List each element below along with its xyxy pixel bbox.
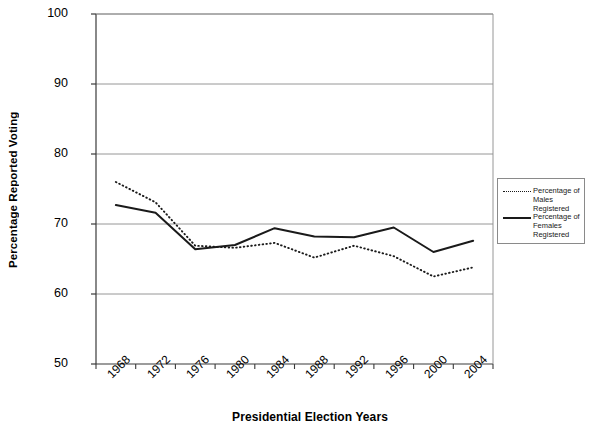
dotted-line-icon xyxy=(503,186,531,198)
line-chart: Percentage Reported Voting 1009080706050… xyxy=(0,0,592,433)
series-line-males xyxy=(116,182,473,277)
series-layer xyxy=(116,182,473,277)
axis-lines xyxy=(96,14,493,364)
y-axis-tick-marks xyxy=(91,14,96,364)
legend-entry-males: Percentage of Males Registered xyxy=(503,186,584,213)
legend-label-females: Percentage of Females Registered xyxy=(533,212,584,239)
legend: Percentage of Males Registered Percentag… xyxy=(497,178,585,244)
x-axis-title: Presidential Election Years xyxy=(120,410,500,424)
legend-entry-females: Percentage of Females Registered xyxy=(503,212,584,239)
legend-label-males: Percentage of Males Registered xyxy=(533,186,584,213)
series-line-females xyxy=(116,205,473,252)
solid-line-icon xyxy=(503,212,531,224)
